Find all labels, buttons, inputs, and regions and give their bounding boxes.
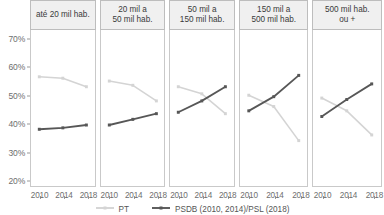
series-line-pt xyxy=(249,95,299,140)
data-point-marker xyxy=(155,99,158,102)
facet-panel-title: 500 mil hab.ou + xyxy=(312,0,382,30)
series-canvas xyxy=(170,30,234,186)
data-point-marker xyxy=(321,97,324,100)
facet-panel-title: até 20 mil hab. xyxy=(30,0,96,30)
data-point-marker xyxy=(297,74,300,77)
y-tick-label: 40% xyxy=(9,119,25,129)
y-tick-label: 30% xyxy=(9,148,25,158)
data-point-marker xyxy=(131,118,134,121)
series-canvas xyxy=(313,30,381,186)
y-tick-label: 20% xyxy=(9,176,25,186)
facet-plot-area xyxy=(312,30,382,187)
legend-item: PT xyxy=(95,204,129,214)
facet-panel-1: 20 mil a50 mil hab.201020142018 xyxy=(100,0,166,215)
y-tick-label: 70% xyxy=(9,34,25,44)
y-axis: 20%30%40%50%60%70% xyxy=(0,0,30,215)
x-tick-label: 2014 xyxy=(125,191,142,200)
data-point-marker xyxy=(177,111,180,114)
data-point-marker xyxy=(371,82,374,85)
x-tick-label: 2014 xyxy=(55,191,72,200)
data-point-marker xyxy=(297,139,300,142)
data-point-marker xyxy=(177,85,180,88)
x-tick-label: 2010 xyxy=(314,191,331,200)
x-tick-label: 2018 xyxy=(219,191,236,200)
data-point-marker xyxy=(155,112,158,115)
facet-panel-title: 150 mil a500 mil hab. xyxy=(239,0,309,30)
series-canvas xyxy=(240,30,308,186)
facet-plot-area xyxy=(239,30,309,187)
x-tick-label: 2014 xyxy=(195,191,212,200)
y-tick-label: 60% xyxy=(9,62,25,72)
x-tick-label: 2018 xyxy=(149,191,166,200)
x-axis: 201020142018 xyxy=(239,187,309,199)
chart-legend: PTPSDB (2010, 2014)/PSL (2018) xyxy=(0,204,384,214)
x-axis: 201020142018 xyxy=(312,187,382,199)
x-axis: 201020142018 xyxy=(30,187,96,199)
data-point-marker xyxy=(85,124,88,127)
data-point-marker xyxy=(38,128,41,131)
data-point-marker xyxy=(201,99,204,102)
y-tick-label: 50% xyxy=(9,91,25,101)
data-point-marker xyxy=(61,77,64,80)
x-tick-label: 2010 xyxy=(101,191,118,200)
data-point-marker xyxy=(224,112,227,115)
faceted-line-chart: 20%30%40%50%60%70% até 20 mil hab.201020… xyxy=(0,0,384,215)
x-tick-label: 2018 xyxy=(366,191,383,200)
series-line-pt xyxy=(322,98,372,135)
x-tick-label: 2018 xyxy=(80,191,97,200)
x-tick-label: 2014 xyxy=(266,191,283,200)
data-point-marker xyxy=(346,98,349,101)
facet-panel-title: 20 mil a50 mil hab. xyxy=(100,0,166,30)
data-point-marker xyxy=(272,105,275,108)
x-axis: 201020142018 xyxy=(169,187,235,199)
data-point-marker xyxy=(85,85,88,88)
facet-panel-title: 50 mil a150 mil hab. xyxy=(169,0,235,30)
legend-item: PSDB (2010, 2014)/PSL (2018) xyxy=(151,204,289,214)
data-point-marker xyxy=(247,109,250,112)
x-tick-label: 2010 xyxy=(31,191,48,200)
data-point-marker xyxy=(224,85,227,88)
x-tick-label: 2018 xyxy=(292,191,309,200)
x-axis: 201020142018 xyxy=(100,187,166,199)
data-point-marker xyxy=(107,80,110,83)
legend-line-swatch xyxy=(95,204,115,214)
data-point-marker xyxy=(272,95,275,98)
data-point-marker xyxy=(107,124,110,127)
series-canvas xyxy=(101,30,165,186)
data-point-marker xyxy=(61,126,64,129)
data-point-marker xyxy=(371,133,374,136)
data-point-marker xyxy=(201,92,204,95)
facet-panel-3: 150 mil a500 mil hab.201020142018 xyxy=(239,0,309,215)
facet-panel-4: 500 mil hab.ou +201020142018 xyxy=(312,0,382,215)
facet-panel-0: até 20 mil hab.201020142018 xyxy=(30,0,96,215)
x-tick-label: 2010 xyxy=(240,191,257,200)
facet-panels: até 20 mil hab.20102014201820 mil a50 mi… xyxy=(30,0,384,215)
legend-label: PT xyxy=(119,205,129,214)
data-point-marker xyxy=(321,115,324,118)
data-point-marker xyxy=(346,109,349,112)
facet-plot-area xyxy=(169,30,235,187)
legend-line-swatch xyxy=(151,204,171,214)
data-point-marker xyxy=(131,84,134,87)
x-tick-label: 2010 xyxy=(170,191,187,200)
facet-plot-area xyxy=(30,30,96,187)
series-canvas xyxy=(31,30,95,186)
data-point-marker xyxy=(38,75,41,78)
x-tick-label: 2014 xyxy=(340,191,357,200)
facet-plot-area xyxy=(100,30,166,187)
data-point-marker xyxy=(247,94,250,97)
facet-panel-2: 50 mil a150 mil hab.201020142018 xyxy=(169,0,235,215)
legend-label: PSDB (2010, 2014)/PSL (2018) xyxy=(175,205,289,214)
